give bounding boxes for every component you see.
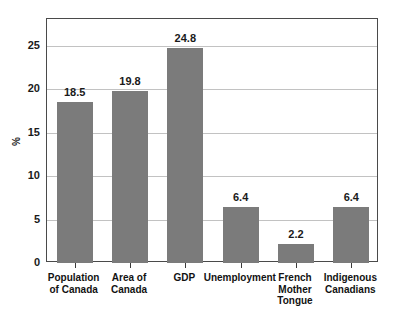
y-axis-tick-text: 0 <box>34 256 40 268</box>
y-axis-tick-text: 10 <box>28 169 40 181</box>
gridline <box>47 176 377 177</box>
bar <box>223 207 259 263</box>
x-axis-tick-mark <box>130 263 131 268</box>
bar <box>278 244 314 263</box>
bar-value-label: 6.4 <box>321 192 381 203</box>
gridline <box>47 46 377 47</box>
x-axis-tick-mark <box>185 263 186 268</box>
bar <box>112 91 148 263</box>
bar-value-label: 2.2 <box>266 229 326 240</box>
bar-chart: % 0510152025 18.519.824.86.42.26.4 Popul… <box>0 0 395 327</box>
y-axis-tick-text: 15 <box>28 126 40 138</box>
x-axis-tick-mark <box>241 263 242 268</box>
bar-value-label: 6.4 <box>211 192 271 203</box>
bar <box>57 102 93 263</box>
y-axis-tick-text: 25 <box>28 39 40 51</box>
y-axis-title: % <box>11 137 22 146</box>
gridline <box>47 133 377 134</box>
x-axis-tick-mark <box>351 263 352 268</box>
plot-area: 18.519.824.86.42.26.4 <box>46 18 378 262</box>
bar-value-label: 24.8 <box>155 33 215 44</box>
x-axis-tick-mark <box>296 263 297 268</box>
bar <box>167 48 203 263</box>
y-axis-tick-text: 5 <box>34 213 40 225</box>
bar-value-label: 18.5 <box>45 87 105 98</box>
y-axis-tick-text: 20 <box>28 82 40 94</box>
gridline <box>47 220 377 221</box>
bar <box>333 207 369 263</box>
x-axis-tick-mark <box>75 263 76 268</box>
x-axis-category-label: Indigenous Canadians <box>314 272 386 295</box>
bar-value-label: 19.8 <box>100 76 160 87</box>
